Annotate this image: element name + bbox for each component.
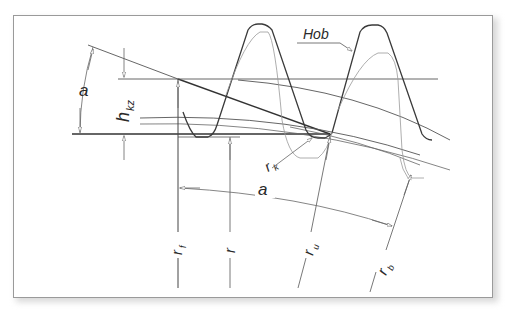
angle-a-label-bottom: a (258, 180, 267, 199)
angle-a-label-left: a (79, 81, 88, 100)
svg-text:h: h (113, 112, 133, 122)
tangent-line (178, 79, 330, 134)
r-label: r (221, 247, 238, 253)
ru-label: r u (299, 241, 321, 257)
rf-label: r f (168, 244, 188, 255)
rb-label: r b (373, 259, 396, 278)
rk-leader (272, 138, 312, 168)
angle-a-bottom-arc (180, 188, 392, 226)
svg-text:b: b (385, 263, 396, 272)
ru-line-upper (311, 136, 330, 232)
ru-arrow-up (326, 138, 330, 160)
hob-diagram: Hob a h kz r f r r u r b r k (0, 0, 513, 316)
svg-text:f: f (178, 244, 188, 248)
svg-text:u: u (311, 243, 322, 250)
reference-line-angled (88, 45, 178, 79)
svg-text:k: k (272, 162, 281, 173)
gear-tooth-2 (338, 53, 424, 178)
rb-arrow-up (404, 175, 411, 195)
svg-text:r: r (168, 249, 185, 255)
angle-a-bottom-arrow-right (372, 220, 392, 226)
svg-text:kz: kz (124, 100, 136, 112)
arc-2 (140, 124, 450, 170)
hkz-label: h kz (113, 100, 136, 123)
ru-line-lower (298, 258, 306, 288)
rk-label: r k (262, 155, 281, 177)
rb-line-lower (370, 272, 376, 292)
hob-label: Hob (303, 26, 329, 42)
angle-a-arrow-top (88, 49, 93, 70)
hob-leader (340, 43, 352, 51)
